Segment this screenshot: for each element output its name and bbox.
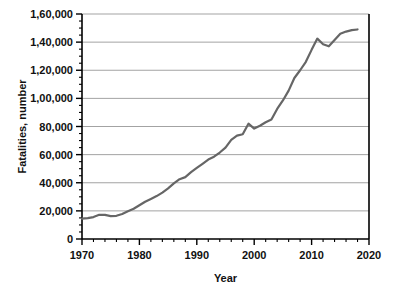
x-tick-label: 2010: [299, 249, 323, 261]
y-tick-label: 60,000: [39, 149, 73, 161]
fatalities-by-year-line-chart: 020,00040,00060,00080,0001,00,0001,20,00…: [0, 0, 396, 292]
x-tick-label: 1990: [185, 249, 209, 261]
y-tick-label: 80,000: [39, 121, 73, 133]
y-axis-title: Fatalities, number: [16, 79, 28, 174]
x-tick-label: 2020: [357, 249, 381, 261]
y-tick-label: 0: [67, 233, 73, 245]
y-tick-label: 1,00,000: [30, 92, 73, 104]
chart-figure: 020,00040,00060,00080,0001,00,0001,20,00…: [0, 0, 396, 292]
x-tick-label: 1970: [70, 249, 94, 261]
y-tick-label: 40,000: [39, 177, 73, 189]
y-tick-label: 1,60,000: [30, 8, 73, 20]
y-tick-label: 1,20,000: [30, 64, 73, 76]
x-tick-label: 1980: [127, 249, 151, 261]
y-tick-label: 20,000: [39, 205, 73, 217]
y-tick-label: 1,40,000: [30, 36, 73, 48]
x-tick-label: 2000: [242, 249, 266, 261]
x-axis-title: Year: [214, 272, 238, 284]
